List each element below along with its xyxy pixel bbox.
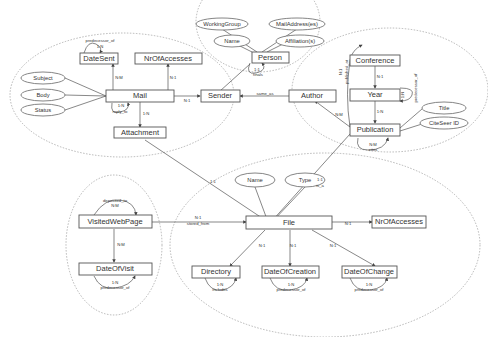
svg-text:WorkingGroup: WorkingGroup <box>203 21 240 27</box>
svg-text:N:1: N:1 <box>259 243 266 248</box>
attribute-working-group: WorkingGroup <box>196 18 248 30</box>
svg-text:1:N: 1:N <box>143 111 150 116</box>
svg-text:Author: Author <box>301 91 324 100</box>
svg-text:Title: Title <box>439 105 450 111</box>
entity-mail: Mail <box>106 90 174 102</box>
svg-text:N:1: N:1 <box>345 221 352 226</box>
svg-text:Name: Name <box>247 177 262 183</box>
svg-text:is_a: is_a <box>316 183 324 188</box>
entity-person: Person <box>252 52 289 63</box>
attribute-name-person: Name <box>214 35 250 47</box>
relationship-labels: predecessor_of 1:N N:M N:1 1:N reply_to … <box>86 38 419 292</box>
svg-text:finals: finals <box>253 72 263 77</box>
svg-text:Affiliation(s): Affiliation(s) <box>285 38 315 44</box>
entity-date-of-visit: DateOfVisit <box>79 263 152 275</box>
svg-text:N:M: N:M <box>117 242 125 247</box>
svg-text:1:N: 1:N <box>400 92 405 99</box>
svg-text:Sender: Sender <box>208 91 233 100</box>
svg-text:cites: cites <box>369 147 378 152</box>
svg-text:N:1: N:1 <box>330 243 337 248</box>
svg-text:N:M: N:M <box>111 203 119 208</box>
svg-text:predecessor_of: predecessor_of <box>101 285 131 290</box>
svg-text:NrOfAccesses: NrOfAccesses <box>144 54 192 63</box>
svg-text:DateSent: DateSent <box>83 54 115 63</box>
attribute-subject: Subject <box>21 72 65 84</box>
svg-text:1:N: 1:N <box>97 44 104 49</box>
attribute-title: Title <box>422 102 466 114</box>
svg-text:N:1: N:1 <box>170 75 177 80</box>
svg-text:VisitedWebPage: VisitedWebPage <box>87 217 142 226</box>
svg-text:Type: Type <box>299 177 312 183</box>
attribute-citeseer-id: CiteSeer ID <box>420 117 468 129</box>
svg-text:Conference: Conference <box>356 56 395 65</box>
svg-text:stored_from: stored_from <box>187 221 210 226</box>
attribute-status: Status <box>21 104 65 116</box>
entity-attachment: Attachment <box>114 127 166 138</box>
svg-text:same_as: same_as <box>257 91 274 96</box>
svg-text:Status: Status <box>35 107 52 113</box>
entity-sender: Sender <box>201 90 240 102</box>
svg-text:Publication: Publication <box>357 125 394 134</box>
entity-file: File <box>246 216 332 229</box>
attribute-name-file: Name <box>235 173 275 187</box>
svg-text:predecessor_of: predecessor_of <box>355 287 385 292</box>
svg-text:N:1: N:1 <box>184 98 191 103</box>
entity-conference: Conference <box>350 55 400 66</box>
svg-text:includes: includes <box>212 287 227 292</box>
svg-text:N:1: N:1 <box>377 74 384 79</box>
svg-text:predecessor_of: predecessor_of <box>86 38 116 43</box>
attribute-body: Body <box>21 89 65 101</box>
svg-text:Body: Body <box>36 92 49 98</box>
svg-text:reply_to: reply_to <box>113 109 129 114</box>
svg-text:MailAddress(es): MailAddress(es) <box>276 21 318 27</box>
svg-text:DateOfVisit: DateOfVisit <box>96 264 135 273</box>
entity-date-of-creation: DateOfCreation <box>262 266 319 278</box>
entity-date-sent: DateSent <box>80 53 118 64</box>
svg-text:File: File <box>283 218 295 227</box>
svg-text:Subject: Subject <box>33 75 53 81</box>
svg-text:N:1: N:1 <box>290 243 297 248</box>
er-diagram: Subject Body Status WorkingGroup MailAdd… <box>0 0 488 337</box>
svg-text:NrOfAccesses: NrOfAccesses <box>375 217 423 226</box>
attribute-affiliations: Affiliation(s) <box>276 35 324 47</box>
svg-text:Name: Name <box>224 38 239 44</box>
svg-text:predecessor_of: predecessor_of <box>413 73 418 103</box>
svg-text:N:M: N:M <box>335 112 343 117</box>
svg-text:published_at: published_at <box>344 59 349 84</box>
svg-text:predecessor_of: predecessor_of <box>277 287 307 292</box>
svg-text:N:M: N:M <box>115 75 123 80</box>
svg-text:DateOfCreation: DateOfCreation <box>264 267 316 276</box>
svg-text:Year: Year <box>367 90 383 99</box>
svg-text:1:1: 1:1 <box>210 179 216 184</box>
svg-text:DateOfChange: DateOfChange <box>344 267 394 276</box>
svg-text:Person: Person <box>258 53 282 62</box>
entity-date-of-change: DateOfChange <box>342 266 397 278</box>
svg-text:CiteSeer ID: CiteSeer ID <box>429 120 459 126</box>
svg-text:Directory: Directory <box>201 267 231 276</box>
svg-text:1:N: 1:N <box>377 109 384 114</box>
svg-text:1:N: 1:N <box>118 103 125 108</box>
entity-author: Author <box>289 90 336 102</box>
attribute-mail-addresses: MailAddress(es) <box>269 18 325 30</box>
svg-text:Attachment: Attachment <box>121 128 160 137</box>
entity-publication: Publication <box>350 124 400 136</box>
entity-nr-of-accesses-mail: NrOfAccesses <box>135 53 202 64</box>
entity-year: Year <box>350 89 400 101</box>
entity-directory: Directory <box>192 266 240 278</box>
entity-visited-web-page: VisitedWebPage <box>79 215 152 228</box>
svg-text:N:1: N:1 <box>195 215 202 220</box>
edges <box>65 29 422 290</box>
svg-text:Mail: Mail <box>133 91 147 100</box>
entity-nr-of-accesses-file: NrOfAccesses <box>372 216 426 228</box>
svg-text:N:1: N:1 <box>338 68 343 75</box>
svg-text:1:1: 1:1 <box>317 177 323 182</box>
